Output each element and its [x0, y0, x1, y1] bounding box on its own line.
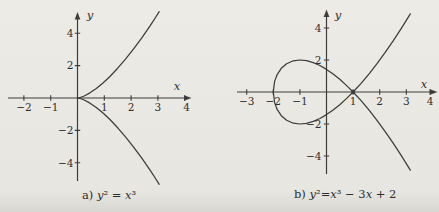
- plot-b-caption-part: =: [321, 187, 331, 201]
- plot-b-caption-part: b): [294, 187, 310, 201]
- plot-a-caption-part: =: [108, 188, 125, 202]
- page: −2 −1 1 2 3 4 4 2 −2 −4 x y −3 −2 −1 1 2…: [0, 0, 439, 212]
- plot-a-y-axis-label: y: [87, 10, 94, 22]
- plot-b-y-tick-label: −4: [306, 151, 321, 162]
- plot-a-x-tick-label: −1: [43, 102, 58, 113]
- plot-a-x-tick-label: −2: [16, 102, 31, 113]
- plot-a-caption-part: a): [82, 188, 97, 202]
- plot-a-y-tick-label: 2: [67, 60, 74, 71]
- plot-b-caption-part: − 3: [341, 187, 365, 201]
- plot-a-y-tick-label: −4: [58, 158, 73, 169]
- plot-b-y-arrowhead-icon: [324, 10, 330, 18]
- plot-b-x-axis-label: x: [421, 79, 428, 91]
- plot-b-x-tick-label: 3: [403, 96, 410, 107]
- plot-a-curve-upper-branch: [78, 12, 160, 98]
- plot-a-caption-part: ³: [132, 188, 137, 202]
- plot-b-curve-branch-2: [273, 14, 410, 124]
- plot-b-node-point: [351, 90, 355, 94]
- plot-a-x-tick-label: 1: [101, 102, 108, 113]
- plot-b-curve-branch-1: [273, 60, 410, 170]
- plot-a-y-tick-label: −2: [58, 125, 73, 136]
- plot-a-caption: a) y² = x³: [82, 189, 136, 203]
- plot-b-caption-part: + 2: [372, 187, 396, 201]
- plot-a-x-tick-label: 4: [183, 102, 190, 113]
- plot-a-axes: [8, 12, 192, 181]
- plot-b-y-tick-label: 2: [315, 54, 322, 65]
- plot-b-x-tick-label: 4: [427, 96, 434, 107]
- plot-a-x-axis-label: x: [174, 81, 181, 93]
- plot-a-y-tick-label: 4: [67, 27, 74, 38]
- plot-b-y-tick-label: −2: [306, 119, 321, 130]
- plot-a-x-tick-label: 3: [155, 102, 162, 113]
- plot-b-x-tick-label: 2: [376, 96, 383, 107]
- plot-b-x-tick-label: −1: [292, 96, 307, 107]
- plot-b-y-axis-label: y: [335, 10, 342, 22]
- plot-b-x-tick-label: 1: [350, 96, 357, 107]
- plot-a-curve-lower-branch: [78, 98, 160, 184]
- plot-b-caption: b) y²=x³ − 3x + 2: [294, 188, 396, 202]
- plot-b-y-tick-label: 4: [315, 22, 322, 33]
- plot-a-x-tick-label: 2: [128, 102, 135, 113]
- plot-a-y-arrowhead-icon: [75, 12, 81, 20]
- plot-b-axes: [237, 10, 438, 175]
- plot-b-x-tick-label: −2: [266, 96, 281, 107]
- plot-b-x-tick-label: −3: [239, 96, 254, 107]
